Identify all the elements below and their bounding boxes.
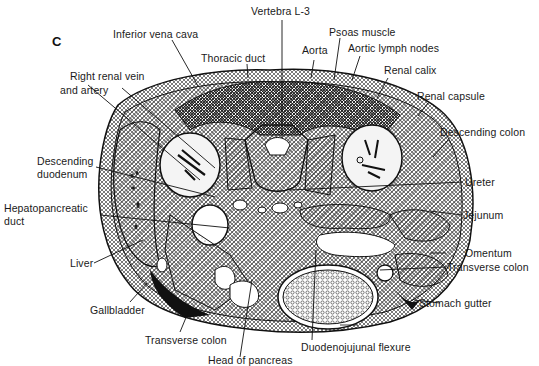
label-stomach-gutter: Stomach gutter	[419, 297, 492, 309]
label-right-renal-vein-2: and artery	[60, 84, 108, 96]
label-transverse-colon-left: Transverse colon	[145, 334, 227, 346]
transverse-colon-right	[377, 265, 393, 281]
gallbladder	[157, 258, 167, 272]
label-jejunum: Jejunum	[463, 209, 503, 221]
cross-section-illustration	[0, 0, 539, 366]
label-liver: Liver	[70, 257, 93, 269]
label-renal-capsule: Renal capsule	[417, 90, 485, 102]
label-renal-calix: Renal calix	[384, 64, 436, 76]
label-transverse-colon-right: Transverse colon	[447, 261, 529, 273]
left-kidney	[342, 125, 402, 191]
label-aorta: Aorta	[302, 44, 328, 56]
label-hepatopancreatic-1: Hepatopancreatic	[4, 202, 88, 214]
psoas-muscle	[305, 135, 335, 195]
label-psoas-muscle: Psoas muscle	[329, 26, 396, 38]
inferior-vena-cava	[233, 200, 247, 210]
aorta	[272, 203, 288, 213]
label-aortic-lymph-nodes: Aortic lymph nodes	[348, 42, 439, 54]
label-descending-colon: Descending colon	[440, 126, 525, 138]
label-omentum: Omentum	[465, 247, 512, 259]
label-hepatopancreatic-2: duct	[4, 215, 24, 227]
label-descending-duodenum-2: duodenum	[37, 168, 87, 180]
label-head-of-pancreas: Head of pancreas	[208, 354, 293, 366]
panel-letter: C	[52, 34, 61, 49]
label-duodenojejunal-flexure: Duodenojujunal flexure	[301, 341, 411, 353]
label-ureter: Ureter	[465, 176, 495, 188]
label-thoracic-duct: Thoracic duct	[201, 52, 265, 64]
label-gallbladder: Gallbladder	[90, 304, 145, 316]
anatomy-figure: C Vertebra L-3 Inferior vena cava Thorac…	[0, 0, 539, 366]
label-right-renal-vein-1: Right renal vein	[70, 70, 145, 82]
label-descending-duodenum-1: Descending	[37, 155, 93, 167]
label-inferior-vena-cava: Inferior vena cava	[113, 28, 198, 40]
label-vertebra: Vertebra L-3	[251, 5, 310, 17]
